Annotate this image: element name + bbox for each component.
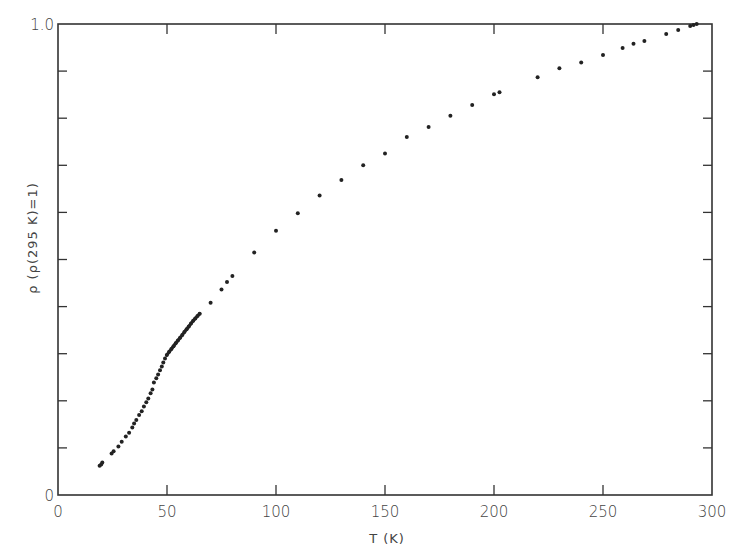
data-point — [116, 445, 120, 449]
data-point — [120, 440, 124, 444]
data-point — [150, 388, 154, 392]
data-point — [579, 61, 583, 65]
data-point — [601, 53, 605, 57]
data-point — [158, 368, 162, 372]
data-point — [100, 461, 104, 465]
x-axis-title: T (K) — [368, 531, 405, 546]
data-point — [339, 178, 343, 182]
data-point — [296, 211, 300, 215]
x-tick-label: 50 — [157, 503, 176, 521]
x-tick-label: 300 — [698, 503, 727, 521]
data-point — [124, 435, 128, 439]
x-tick-label: 250 — [589, 503, 618, 521]
data-point — [664, 32, 668, 36]
data-point — [230, 274, 234, 278]
data-point — [154, 376, 158, 380]
data-point — [676, 28, 680, 32]
data-point — [160, 364, 164, 368]
data-point — [161, 361, 165, 365]
x-tick-label: 100 — [262, 503, 291, 521]
data-point — [470, 103, 474, 107]
data-point — [225, 280, 229, 284]
data-point — [536, 75, 540, 79]
data-point — [274, 229, 278, 233]
data-point — [252, 250, 256, 254]
axis-tick-labels: 05010015020025030001.0 — [30, 16, 726, 521]
data-point — [492, 92, 496, 96]
data-point — [130, 426, 134, 430]
data-point — [134, 418, 138, 422]
data-point — [149, 391, 153, 395]
data-point — [140, 409, 144, 413]
data-point — [498, 90, 502, 94]
data-point — [156, 372, 160, 376]
data-point — [142, 405, 146, 409]
data-point — [152, 380, 156, 384]
data-point — [448, 114, 452, 118]
x-tick-label: 200 — [480, 503, 509, 521]
y-axis-title: ρ (ρ(295 K)=1) — [25, 182, 40, 294]
data-point — [198, 312, 202, 316]
data-point — [642, 39, 646, 43]
data-point — [318, 193, 322, 197]
data-point — [132, 421, 136, 425]
data-point — [557, 66, 561, 70]
data-point — [137, 413, 141, 417]
data-point — [427, 125, 431, 129]
plot-border — [58, 24, 712, 495]
y-tick-label: 1.0 — [30, 16, 54, 34]
data-point — [383, 152, 387, 156]
data-point — [361, 163, 365, 167]
x-tick-label: 0 — [53, 503, 63, 521]
axis-ticks — [58, 24, 712, 495]
data-points — [98, 22, 699, 468]
data-point — [127, 431, 131, 435]
data-point — [165, 353, 169, 357]
x-tick-label: 150 — [371, 503, 400, 521]
data-point — [220, 288, 224, 292]
data-point — [632, 42, 636, 46]
data-point — [405, 135, 409, 139]
data-point — [146, 396, 150, 400]
data-point — [209, 301, 213, 305]
data-point — [621, 46, 625, 50]
data-point — [144, 400, 148, 404]
data-point — [112, 449, 116, 453]
plot-frame — [58, 24, 712, 495]
data-point — [695, 22, 699, 26]
resistivity-vs-temperature-chart: 05010015020025030001.0 T (K) ρ (ρ(295 K)… — [0, 0, 743, 559]
y-tick-label: 0 — [44, 487, 54, 505]
